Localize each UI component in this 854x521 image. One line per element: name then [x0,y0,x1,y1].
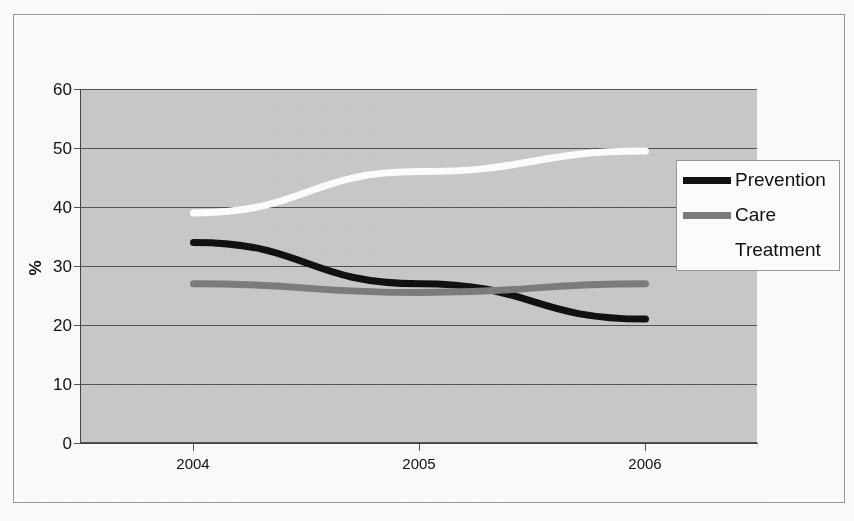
y-tick-label-40: 40 [34,199,72,216]
gridline-60 [80,89,757,90]
gridline-30 [80,266,757,267]
y-tick-mark-60 [74,89,81,90]
x-tick-mark-2006 [645,443,646,451]
gridline-40 [80,207,757,208]
legend-label-care: Care [735,204,776,226]
legend-entry-treatment: Treatment [683,235,821,265]
chart-legend: Prevention Care Treatment [676,160,840,271]
gridline-50 [80,148,757,149]
legend-swatch-care [683,212,731,219]
legend-label-prevention: Prevention [735,169,826,191]
y-tick-mark-40 [74,207,81,208]
y-tick-label-10: 10 [34,376,72,393]
y-tick-mark-0 [74,443,81,444]
gridline-10 [80,384,757,385]
y-tick-label-60: 60 [34,81,72,98]
x-tick-mark-2005 [419,443,420,451]
gridline-20 [80,325,757,326]
x-tick-label-2004: 2004 [153,455,233,472]
y-tick-mark-20 [74,325,81,326]
legend-label-treatment: Treatment [735,239,821,261]
legend-swatch-prevention [683,177,731,184]
y-tick-label-50: 50 [34,140,72,157]
line-chart: 60 50 40 30 20 10 0 % 2004 2005 2006 Pre… [0,0,854,521]
y-tick-mark-50 [74,148,81,149]
x-tick-mark-2004 [193,443,194,451]
y-tick-mark-30 [74,266,81,267]
y-tick-label-20: 20 [34,317,72,334]
x-tick-label-2005: 2005 [379,455,459,472]
legend-entry-prevention: Prevention [683,165,826,195]
plot-area [80,89,757,443]
legend-swatch-treatment [683,247,731,254]
x-tick-label-2006: 2006 [605,455,685,472]
legend-entry-care: Care [683,200,776,230]
y-axis-title: % [26,248,46,288]
y-tick-label-0: 0 [34,435,72,452]
y-tick-mark-10 [74,384,81,385]
